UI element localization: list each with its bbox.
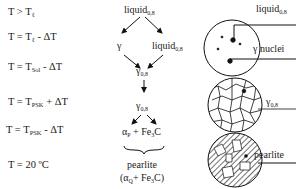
micro-liquid-circle [204, 20, 296, 76]
micro-gamma-circle [208, 78, 296, 133]
diagram-graphics [0, 0, 300, 189]
micro-pearlite-circle [205, 130, 296, 189]
flow-arrows [122, 17, 164, 154]
